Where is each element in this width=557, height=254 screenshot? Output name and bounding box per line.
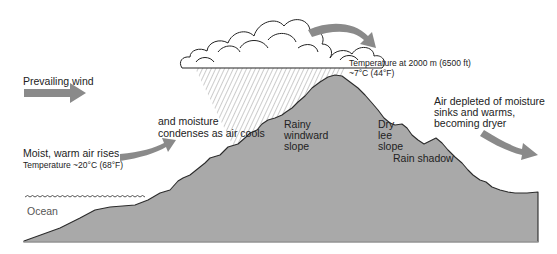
- lee-slope-label-line3: slope: [378, 140, 403, 152]
- prevailing-wind-label: Prevailing wind: [23, 75, 94, 87]
- depleted-air-label-line3: becoming dryer: [434, 117, 506, 129]
- rain-shadow-diagram: Prevailing wind Moist, warm air rises Te…: [0, 0, 557, 254]
- sinking-air-arrow: [480, 130, 538, 160]
- rain-shadow-label: Rain shadow: [393, 152, 454, 164]
- ocean-label: Ocean: [27, 205, 58, 217]
- ocean-waves: [25, 196, 145, 198]
- rising-air-arrow: [120, 138, 176, 161]
- condenses-label-line2: condenses as air cools: [158, 127, 265, 139]
- windward-slope-label-line3: slope: [284, 140, 309, 152]
- summit-temperature-label-line2: ~7°C (44°F): [349, 68, 394, 78]
- moist-air-temperature-label: Temperature ~20°C (68°F): [23, 160, 123, 170]
- condenses-label-line1: and moisture: [158, 115, 219, 127]
- summit-temperature-label-line1: Temperature at 2000 m (6500 ft): [349, 58, 471, 68]
- moist-air-label: Moist, warm air rises: [23, 147, 119, 159]
